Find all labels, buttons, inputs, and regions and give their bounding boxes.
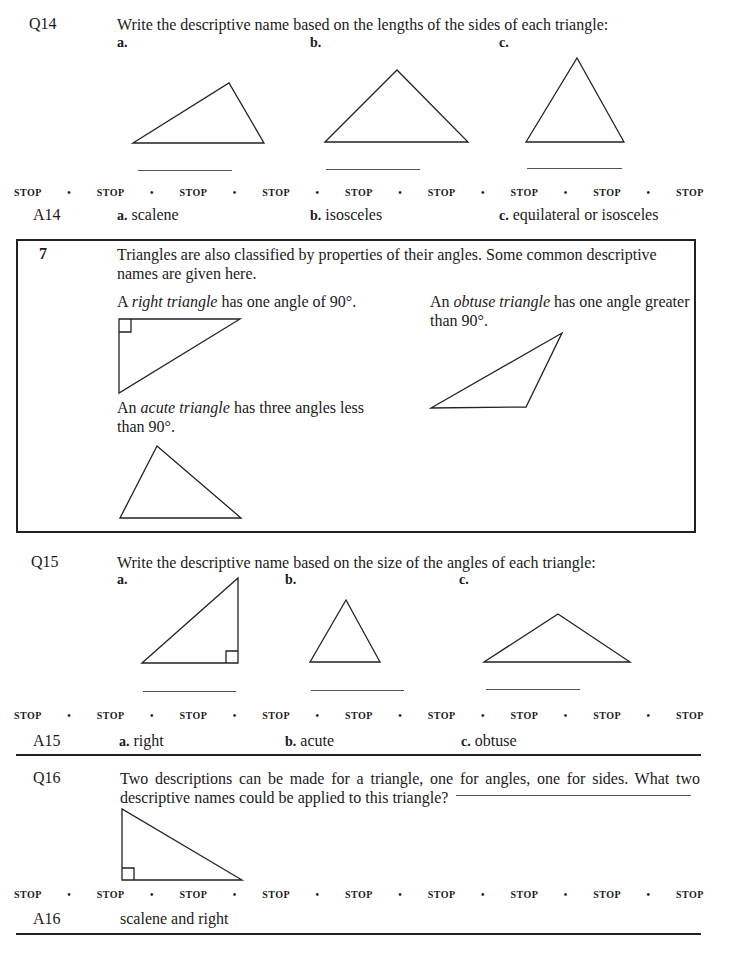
stop-bar: STOP• STOP• STOP• STOP• STOP• STOP• STOP…: [14, 889, 704, 900]
scalene-right-triangle-figure: [0, 0, 739, 900]
divider: [16, 933, 701, 935]
answer-label: A16: [33, 910, 61, 928]
answer-text: scalene and right: [120, 910, 228, 928]
